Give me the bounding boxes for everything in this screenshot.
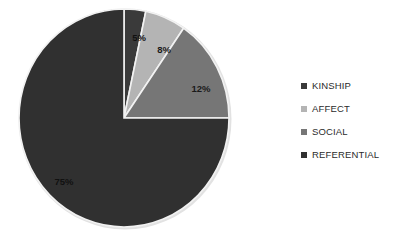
pie-graphic: 5% 8% 12% 75% [17, 7, 233, 231]
legend-swatch-icon [301, 83, 307, 89]
pie-svg: 5% 8% 12% 75% [17, 7, 233, 231]
chart-legend: KINSHIP AFFECT SOCIAL REFERENTIAL [301, 74, 400, 166]
legend-swatch-icon [301, 129, 307, 135]
legend-swatch-icon [301, 152, 307, 158]
pie-slices [19, 9, 229, 227]
pie-label-social: 12% [191, 83, 211, 94]
pie-label-kinship: 5% [132, 32, 146, 43]
legend-label-kinship: KINSHIP [312, 81, 351, 91]
legend-label-referential: REFERENTIAL [312, 150, 379, 160]
legend-swatch-icon [301, 106, 307, 112]
pie-label-referential: 75% [54, 176, 74, 187]
pie-label-affect: 8% [157, 44, 171, 55]
legend-item-kinship[interactable]: KINSHIP [301, 74, 400, 97]
legend-item-affect[interactable]: AFFECT [301, 97, 400, 120]
legend-item-referential[interactable]: REFERENTIAL [301, 143, 400, 166]
legend-item-social[interactable]: SOCIAL [301, 120, 400, 143]
pie-chart: 5% 8% 12% 75% KINSHIP AFFECT SOCIAL REFE… [0, 0, 402, 237]
legend-label-social: SOCIAL [312, 127, 348, 137]
legend-label-affect: AFFECT [312, 104, 350, 114]
